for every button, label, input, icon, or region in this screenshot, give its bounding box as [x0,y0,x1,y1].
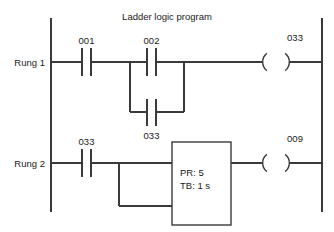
timer-preset-label: PR: 5 [180,167,204,178]
coil-033-label: 033 [287,32,303,43]
diagram-title: Ladder logic program [122,11,212,22]
contact-033-rung2-label: 033 [79,136,95,147]
coil-009-label: 009 [287,133,303,144]
coil-009-arc-left [263,154,267,171]
coil-033-arc-right [285,53,289,70]
coil-009-arc-right [285,154,289,171]
contact-002-label: 002 [144,35,160,46]
coil-033-arc-left [263,53,267,70]
timer-timebase-label: TB: 1 s [180,180,210,191]
rung2-label: Rung 2 [14,158,45,169]
rung1-label: Rung 1 [14,57,45,68]
ladder-diagram-canvas: Ladder logic program 001 002 033 [0,0,334,232]
contact-001-label: 001 [79,35,95,46]
ladder-logic-diagram: Ladder logic program 001 002 033 [0,0,334,232]
contact-033-branch-label: 033 [144,130,160,141]
